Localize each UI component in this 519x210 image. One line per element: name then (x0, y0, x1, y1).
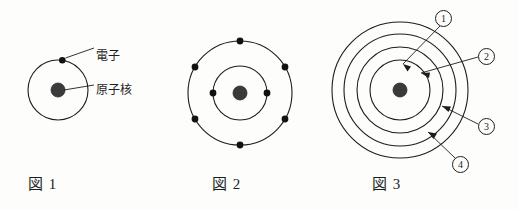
fig2-electron-dot (264, 90, 271, 97)
fig3-callout-1-leader-line (403, 26, 440, 64)
fig2-electron-dot (192, 116, 199, 123)
fig1-nucleus-leader-line (64, 85, 94, 90)
shell-callout-number-2: 2 (478, 48, 495, 65)
figure-2-caption: 図 2 (212, 172, 241, 193)
fig2-electron-dot (282, 64, 289, 71)
figures-drawing (0, 0, 519, 210)
fig2-electron-dot (192, 64, 199, 71)
fig2-electron-dot (210, 90, 217, 97)
fig1-electron-leader-line (66, 48, 95, 58)
electron-label: 電子 (96, 46, 120, 64)
fig1-electron-dot (59, 57, 66, 64)
fig2-electron-dot (237, 38, 244, 45)
figure-3-caption: 図 3 (372, 172, 401, 193)
fig2-nucleus-dot (233, 86, 247, 100)
fig1-nucleus-dot (51, 83, 65, 97)
atomic-structure-figure-sheet: 電子 原子核 1 2 3 4 図 1 図 2 図 3 (0, 0, 519, 210)
nucleus-label: 原子核 (96, 80, 132, 98)
shell-callout-number-4: 4 (452, 156, 469, 173)
shell-callout-number-3: 3 (478, 118, 495, 135)
fig3-callout-3-arrowhead (442, 106, 451, 112)
figure-3-group (332, 22, 478, 158)
fig3-callout-1-arrowhead (403, 64, 411, 72)
fig3-nucleus-dot (393, 83, 407, 97)
fig2-electron-dot (282, 116, 289, 123)
figure-1-group (28, 48, 94, 120)
figure-1-caption: 図 1 (28, 172, 57, 193)
figure-2-group (188, 38, 292, 149)
shell-callout-number-1: 1 (435, 10, 452, 27)
fig3-callout-2-arrowhead (421, 73, 430, 79)
fig2-electron-dot (237, 142, 244, 149)
